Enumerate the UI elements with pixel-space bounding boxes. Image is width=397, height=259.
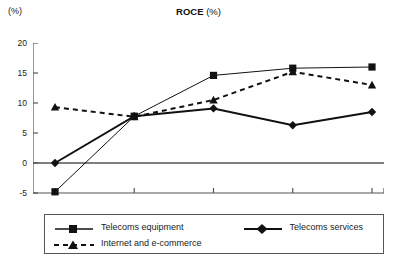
diamond-marker-icon <box>368 108 376 116</box>
legend-entry-telecoms-equipment: Telecoms equipment <box>53 221 184 233</box>
y-axis-tick-label: 5 <box>1 129 27 137</box>
y-axis-tick-label: 15 <box>1 69 27 77</box>
triangle-marker-icon <box>368 81 376 89</box>
diamond-marker-icon <box>289 121 297 129</box>
legend-row-top: Telecoms equipment Telecoms services <box>53 220 363 234</box>
chart-title: ROCE (%) <box>0 6 397 17</box>
y-axis-tick-label: 10 <box>1 99 27 107</box>
series-line <box>55 108 372 163</box>
square-marker-icon <box>368 63 375 70</box>
plot-svg <box>33 43 384 218</box>
legend-row-bottom: Internet and e-commerce <box>53 236 202 250</box>
diamond-marker-icon <box>209 104 217 112</box>
chart-legend: Telecoms equipment Telecoms services <box>44 214 384 254</box>
series-telecoms-services <box>51 104 376 167</box>
chart-figure: (%) ROCE (%) 20151050-520022003200420052… <box>0 0 397 259</box>
square-marker-icon <box>53 221 95 233</box>
series-line <box>55 67 372 192</box>
y-axis-tick-label: 20 <box>1 39 27 47</box>
legend-entry-telecoms-services: Telecoms services <box>242 221 364 233</box>
legend-entry-internet-ecommerce: Internet and e-commerce <box>53 237 202 249</box>
triangle-marker-icon <box>53 237 95 249</box>
square-marker-icon <box>210 72 217 79</box>
legend-label-telecoms-services: Telecoms services <box>290 222 364 232</box>
diamond-marker-icon <box>51 159 59 167</box>
series-telecoms-equipment <box>51 63 375 195</box>
legend-label-telecoms-equipment: Telecoms equipment <box>101 222 184 232</box>
diamond-marker-icon <box>242 221 284 233</box>
y-axis-tick-label: 0 <box>1 159 27 167</box>
plot-area: 20151050-520022003200420052006 <box>33 43 384 193</box>
chart-title-unit: (%) <box>204 6 221 17</box>
legend-label-internet-ecommerce: Internet and e-commerce <box>101 238 202 248</box>
y-axis-tick-label: -5 <box>1 189 27 197</box>
square-marker-icon <box>51 188 58 195</box>
chart-title-main: ROCE <box>176 6 203 17</box>
